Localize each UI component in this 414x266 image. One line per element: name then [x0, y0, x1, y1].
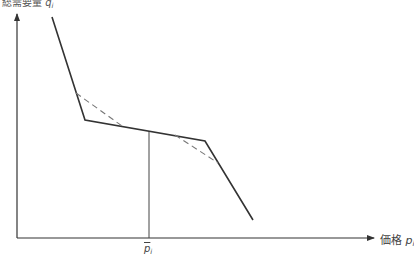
pbar-subscript: i: [150, 248, 152, 256]
x-axis-label: 価格 pi: [380, 231, 414, 248]
y-axis-label: 総需要量 qi: [2, 0, 54, 10]
y-axis-subscript: i: [52, 2, 54, 10]
x-axis-label-text: 価格: [380, 234, 406, 247]
pbar-tick-label: pi: [144, 243, 152, 256]
dashed-smoothing-left: [76, 93, 122, 126]
kinked-demand-curve: [52, 17, 253, 220]
y-axis-label-text: 総需要量: [2, 0, 45, 8]
